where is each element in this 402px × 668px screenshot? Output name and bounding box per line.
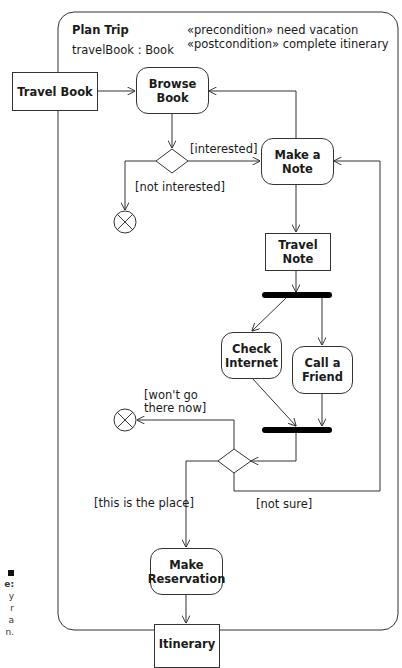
postcondition-label: «postcondition» complete itinerary [187, 37, 389, 51]
object-node-travel-note: Travel Note [265, 233, 331, 271]
activity-parameter: travelBook : Book [72, 43, 174, 57]
activity-frame [58, 12, 398, 630]
object-node-itinerary: Itinerary [154, 624, 220, 668]
itinerary-label: Itinerary [159, 637, 215, 651]
flow-final-icon [114, 211, 136, 233]
action-make-a-note: Make a Note [261, 138, 334, 185]
action-check-internet: Check Internet [221, 332, 282, 379]
edge-wont-go [137, 420, 234, 449]
browse-book-label-1: Browse [149, 77, 197, 91]
guard-interested: [interested] [190, 142, 257, 156]
travel-note-label-2: Note [283, 252, 314, 266]
make-note-label-2: Note [282, 162, 313, 176]
caption-line: n. [0, 626, 14, 638]
make-note-label-1: Make a [274, 148, 320, 162]
guard-wont-go-2: there now] [144, 401, 206, 415]
action-browse-book: Browse Book [136, 67, 209, 114]
edge-check-join [252, 378, 296, 426]
decision-node-interest [156, 149, 188, 173]
browse-book-label-2: Book [156, 91, 188, 105]
guard-this-is-the-place: [this is the place] [94, 496, 194, 510]
make-reservation-label-1: Make [169, 558, 203, 572]
call-friend-label-1: Call a [305, 356, 341, 370]
action-make-reservation: Make Reservation [150, 548, 223, 595]
guard-not-sure: [not sure] [256, 497, 312, 511]
action-call-a-friend: Call a Friend [292, 346, 353, 394]
decision-node-choice [218, 449, 251, 473]
travel-note-label-1: Travel [278, 238, 317, 252]
caption-line: r [0, 602, 14, 614]
make-reservation-label-2: Reservation [148, 572, 226, 586]
check-internet-label-2: Internet [225, 356, 278, 370]
caption-line: e: [0, 578, 14, 590]
edge-not-sure [234, 161, 380, 491]
object-node-travel-book: Travel Book [12, 72, 98, 111]
precondition-label: «precondition» need vacation [187, 23, 358, 37]
caption-line: y [0, 590, 14, 602]
caption-bullet-icon [8, 570, 14, 576]
guard-not-interested: [not interested] [135, 180, 225, 194]
join-bar [262, 427, 332, 433]
flow-final-icon [114, 409, 136, 431]
edge-note-to-browse [209, 91, 296, 138]
check-internet-label-1: Check [232, 342, 271, 356]
edge-fork-check [252, 298, 286, 331]
figure-caption-fragment: e: y r a n. [0, 570, 14, 638]
travel-book-label: Travel Book [17, 85, 92, 99]
activity-name: Plan Trip [72, 23, 129, 37]
call-friend-label-2: Friend [302, 370, 343, 384]
fork-bar [262, 292, 332, 298]
caption-line: a [0, 614, 14, 626]
guard-wont-go-1: [won't go [144, 388, 198, 402]
edge-join-decision [251, 433, 296, 461]
